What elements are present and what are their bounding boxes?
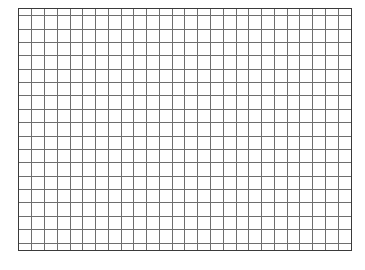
grid-cell[interactable] xyxy=(236,163,249,176)
grid-cell[interactable] xyxy=(32,203,45,216)
grid-cell[interactable] xyxy=(274,176,287,189)
grid-cell[interactable] xyxy=(96,243,109,250)
grid-cell[interactable] xyxy=(121,203,134,216)
grid-cell[interactable] xyxy=(287,149,300,162)
grid-cell[interactable] xyxy=(338,149,351,162)
grid-cell[interactable] xyxy=(45,123,58,136)
grid-cell[interactable] xyxy=(287,56,300,69)
grid-cell[interactable] xyxy=(70,123,83,136)
grid-cell[interactable] xyxy=(147,29,160,42)
grid-cell[interactable] xyxy=(172,203,185,216)
grid-cell[interactable] xyxy=(325,42,338,55)
grid-cell[interactable] xyxy=(108,83,121,96)
grid-cell[interactable] xyxy=(338,96,351,109)
grid-cell[interactable] xyxy=(236,96,249,109)
grid-cell[interactable] xyxy=(147,42,160,55)
grid-cell[interactable] xyxy=(210,230,223,243)
grid-cell[interactable] xyxy=(121,190,134,203)
grid-cell[interactable] xyxy=(134,149,147,162)
grid-cell[interactable] xyxy=(172,56,185,69)
grid-cell[interactable] xyxy=(134,203,147,216)
grid-cell[interactable] xyxy=(108,69,121,82)
grid-cell[interactable] xyxy=(147,216,160,229)
grid-cell[interactable] xyxy=(134,243,147,250)
grid-cell[interactable] xyxy=(236,230,249,243)
grid-cell[interactable] xyxy=(185,190,198,203)
grid-cell[interactable] xyxy=(96,96,109,109)
grid-cell[interactable] xyxy=(134,42,147,55)
grid-cell[interactable] xyxy=(83,16,96,29)
grid-cell[interactable] xyxy=(19,203,32,216)
grid-cell[interactable] xyxy=(172,9,185,16)
grid-cell[interactable] xyxy=(70,96,83,109)
grid-cell[interactable] xyxy=(249,203,262,216)
grid-cell[interactable] xyxy=(210,136,223,149)
grid-cell[interactable] xyxy=(338,163,351,176)
grid-cell[interactable] xyxy=(19,109,32,122)
grid-cell[interactable] xyxy=(185,42,198,55)
grid-cell[interactable] xyxy=(300,190,313,203)
grid-cell[interactable] xyxy=(147,109,160,122)
grid-cell[interactable] xyxy=(185,136,198,149)
grid-cell[interactable] xyxy=(287,136,300,149)
grid-cell[interactable] xyxy=(185,163,198,176)
grid-cell[interactable] xyxy=(300,149,313,162)
grid-cell[interactable] xyxy=(210,216,223,229)
grid-cell[interactable] xyxy=(223,190,236,203)
grid-cell[interactable] xyxy=(121,216,134,229)
grid-cell[interactable] xyxy=(147,56,160,69)
grid-cell[interactable] xyxy=(159,56,172,69)
grid-cell[interactable] xyxy=(338,9,351,16)
grid-cell[interactable] xyxy=(300,136,313,149)
grid-cell[interactable] xyxy=(338,136,351,149)
blank-grid-sheet[interactable] xyxy=(18,8,352,251)
grid-cell[interactable] xyxy=(32,96,45,109)
grid-cell[interactable] xyxy=(313,123,326,136)
grid-cell[interactable] xyxy=(32,29,45,42)
grid-cell[interactable] xyxy=(45,16,58,29)
grid-cell[interactable] xyxy=(134,29,147,42)
grid-cell[interactable] xyxy=(249,149,262,162)
grid-cell[interactable] xyxy=(325,16,338,29)
grid-cell[interactable] xyxy=(57,42,70,55)
grid-cell[interactable] xyxy=(313,149,326,162)
grid-cell[interactable] xyxy=(262,123,275,136)
grid-cell[interactable] xyxy=(236,109,249,122)
grid-cell[interactable] xyxy=(249,243,262,250)
grid-cell[interactable] xyxy=(313,96,326,109)
grid-cell[interactable] xyxy=(198,109,211,122)
grid-cell[interactable] xyxy=(236,9,249,16)
grid-cell[interactable] xyxy=(32,216,45,229)
grid-cell[interactable] xyxy=(325,69,338,82)
grid-cell[interactable] xyxy=(70,83,83,96)
grid-cell[interactable] xyxy=(300,176,313,189)
grid-cell[interactable] xyxy=(108,190,121,203)
grid-cell[interactable] xyxy=(108,42,121,55)
grid-cell[interactable] xyxy=(210,243,223,250)
grid-cell[interactable] xyxy=(223,9,236,16)
grid-cell[interactable] xyxy=(300,69,313,82)
grid-cell[interactable] xyxy=(287,190,300,203)
grid-cell[interactable] xyxy=(313,83,326,96)
grid-cell[interactable] xyxy=(96,136,109,149)
grid-cell[interactable] xyxy=(96,42,109,55)
grid-cell[interactable] xyxy=(159,42,172,55)
grid-cell[interactable] xyxy=(262,190,275,203)
grid-cell[interactable] xyxy=(287,203,300,216)
grid-cell[interactable] xyxy=(274,243,287,250)
grid-cell[interactable] xyxy=(287,9,300,16)
grid-cell[interactable] xyxy=(32,83,45,96)
grid-cell[interactable] xyxy=(198,136,211,149)
grid-cell[interactable] xyxy=(313,109,326,122)
grid-cell[interactable] xyxy=(83,149,96,162)
grid-cell[interactable] xyxy=(313,16,326,29)
grid-cell[interactable] xyxy=(274,149,287,162)
grid-cell[interactable] xyxy=(96,16,109,29)
grid-cell[interactable] xyxy=(45,230,58,243)
grid-cell[interactable] xyxy=(57,176,70,189)
grid-cell[interactable] xyxy=(96,176,109,189)
grid-cell[interactable] xyxy=(313,56,326,69)
grid-cell[interactable] xyxy=(198,9,211,16)
grid-cell[interactable] xyxy=(57,9,70,16)
grid-cell[interactable] xyxy=(70,9,83,16)
